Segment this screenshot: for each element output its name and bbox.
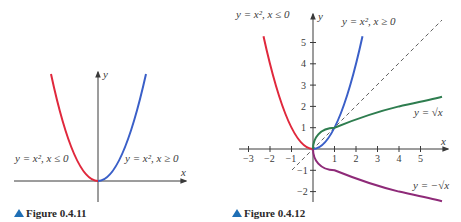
figure-caption: Figure 0.4.12 bbox=[244, 207, 306, 219]
label-right-curve: y = x², x ≥ 0 bbox=[341, 15, 396, 27]
svg-text:4: 4 bbox=[301, 58, 306, 69]
svg-text:−3: −3 bbox=[243, 153, 254, 164]
svg-text:2: 2 bbox=[354, 153, 359, 164]
svg-text:2: 2 bbox=[301, 101, 306, 112]
figure-0-4-11: y x y = x², x ≤ 0 y = x², x ≥ 0 Figure 0… bbox=[14, 68, 186, 219]
curve-right-parabola bbox=[98, 74, 146, 181]
figure-caption: Figure 0.4.11 bbox=[26, 207, 87, 219]
label-left-curve: y = x², x ≤ 0 bbox=[235, 8, 290, 20]
label-sqrt: y = √x bbox=[413, 106, 443, 118]
svg-text:3: 3 bbox=[375, 153, 380, 164]
label-negative-sqrt: y = −√x bbox=[412, 179, 449, 191]
y-tick-labels: 5 4 3 2 1 −1 −2 bbox=[297, 37, 308, 197]
svg-text:1: 1 bbox=[301, 122, 306, 133]
y-axis-label: y bbox=[317, 10, 323, 22]
caption-triangle-icon bbox=[232, 209, 242, 217]
svg-text:−2: −2 bbox=[297, 186, 308, 197]
svg-text:−1: −1 bbox=[297, 165, 308, 176]
svg-text:3: 3 bbox=[301, 80, 306, 91]
label-right-curve: y = x², x ≥ 0 bbox=[124, 152, 179, 164]
svg-text:1: 1 bbox=[332, 153, 337, 164]
x-axis-label: x bbox=[440, 135, 446, 147]
figure-0-4-12: y x −3 −2 −1 1 2 3 4 5 bbox=[232, 8, 449, 219]
x-axis-label: x bbox=[180, 166, 186, 178]
svg-text:5: 5 bbox=[301, 37, 306, 48]
svg-text:4: 4 bbox=[397, 153, 402, 164]
svg-text:−1: −1 bbox=[286, 153, 297, 164]
curve-left-parabola bbox=[51, 74, 98, 181]
caption-triangle-icon bbox=[14, 209, 24, 217]
x-tick-labels: −3 −2 −1 1 2 3 4 5 bbox=[243, 153, 423, 164]
label-left-curve: y = x², x ≤ 0 bbox=[14, 152, 69, 164]
svg-text:5: 5 bbox=[418, 153, 423, 164]
svg-text:−2: −2 bbox=[264, 153, 275, 164]
figures-canvas: y x y = x², x ≤ 0 y = x², x ≥ 0 Figure 0… bbox=[0, 0, 461, 222]
curve-sqrt bbox=[313, 97, 442, 149]
y-axis-label: y bbox=[102, 68, 108, 80]
